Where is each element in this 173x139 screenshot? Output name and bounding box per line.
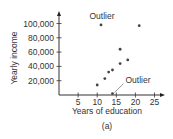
y-axis-arrow-icon — [57, 11, 61, 16]
data-point — [119, 62, 122, 65]
x-axis-label: Years of education — [72, 106, 142, 116]
data-point — [103, 77, 106, 80]
data-point — [96, 84, 99, 87]
y-tick-label: 100,000 — [23, 19, 54, 29]
data-point — [119, 48, 122, 51]
y-axis-label: Yearly income — [9, 31, 19, 84]
x-axis-arrow-icon — [160, 93, 165, 97]
figure-caption: (a) — [102, 121, 113, 131]
data-point — [138, 24, 141, 27]
data-point — [111, 69, 114, 72]
y-tick-label: 60,000 — [28, 47, 54, 57]
y-tick-label: 80,000 — [28, 33, 54, 43]
data-point — [126, 59, 129, 62]
y-tick-label: 40,000 — [28, 61, 54, 71]
annotations: OutlierOutlier — [89, 11, 150, 93]
x-tick-label: 25 — [150, 97, 160, 107]
outlier-leader-line — [114, 84, 123, 93]
y-tick-label: 20,000 — [28, 76, 54, 86]
outlier-label-high: Outlier — [89, 11, 114, 21]
data-point — [100, 24, 103, 27]
ticks: 51015202520,00040,00060,00080,000100,000 — [23, 19, 159, 108]
outlier-label-low: Outlier — [125, 75, 150, 85]
data-point — [107, 71, 110, 74]
scatter-chart: 51015202520,00040,00060,00080,000100,000… — [0, 0, 173, 139]
data-point — [111, 92, 114, 95]
